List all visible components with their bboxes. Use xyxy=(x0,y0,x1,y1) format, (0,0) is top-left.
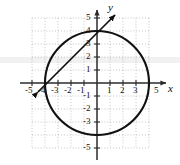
x-tick-label: -5 xyxy=(25,86,33,95)
x-tick-label: 1 xyxy=(107,86,112,95)
x-tick-label: 3 xyxy=(133,86,138,95)
y-tick-label: -1 xyxy=(83,91,91,100)
graph-figure: y x -5 -4 -3 -2 -1 1 2 3 5 5 4 3 2 1 -1 … xyxy=(0,0,180,165)
line-curve xyxy=(38,15,115,92)
y-tick-label: -5 xyxy=(83,143,91,152)
x-tick-label: -3 xyxy=(51,86,59,95)
y-axis-label: y xyxy=(108,2,113,13)
x-tick-label: 5 xyxy=(154,86,159,95)
x-tick-label: -4 xyxy=(38,86,46,95)
x-tick-label: 2 xyxy=(120,86,125,95)
y-tick-label: 4 xyxy=(86,26,91,35)
y-tick-label: 5 xyxy=(86,13,91,22)
y-tick-label: -2 xyxy=(83,104,91,113)
y-tick-label: 2 xyxy=(86,52,91,61)
y-tick-label: 1 xyxy=(86,65,91,74)
y-tick-label: -3 xyxy=(83,117,91,126)
x-axis-label: x xyxy=(168,83,173,94)
x-tick-label: -2 xyxy=(64,86,72,95)
y-tick-label: 3 xyxy=(86,39,91,48)
